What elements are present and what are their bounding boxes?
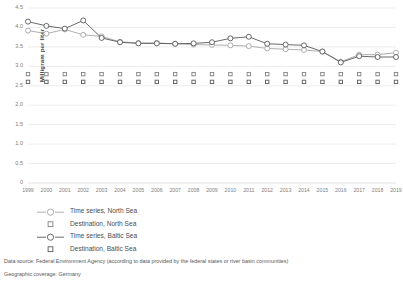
series-destination-north-sea: [26, 72, 397, 75]
legend-item[interactable]: Time series, North Sea: [36, 206, 266, 218]
data-point-marker: [191, 41, 196, 46]
legend-item[interactable]: Destination, Baltic Sea: [36, 243, 266, 255]
legend-item-label: Destination, Baltic Sea: [70, 246, 136, 253]
data-point-marker: [44, 23, 49, 28]
destination-marker: [63, 72, 66, 75]
data-point-marker: [357, 54, 362, 59]
data-point-marker: [228, 43, 233, 48]
y-tick-label: 0: [0, 180, 23, 186]
destination-marker: [266, 80, 269, 83]
destination-marker: [266, 72, 269, 75]
destination-marker: [394, 72, 397, 75]
destination-marker: [63, 80, 66, 83]
legend-line-circle-icon: [36, 231, 66, 243]
data-point-marker: [173, 41, 178, 46]
data-point-marker: [246, 34, 251, 39]
destination-marker: [137, 80, 140, 83]
series-time-series-baltic-sea: [26, 18, 399, 65]
destination-marker: [100, 80, 103, 83]
legend-item[interactable]: Destination, North Sea: [36, 218, 266, 230]
destination-marker: [339, 72, 342, 75]
destination-marker: [358, 72, 361, 75]
destination-marker: [26, 80, 29, 83]
destination-marker: [229, 72, 232, 75]
destination-marker: [45, 72, 48, 75]
series-time-series-north-sea: [26, 27, 399, 64]
legend-square-icon: [36, 218, 66, 230]
destination-marker: [321, 80, 324, 83]
destination-marker: [210, 72, 213, 75]
destination-marker: [394, 80, 397, 83]
y-tick-label: 4.0: [0, 24, 23, 30]
footnote-geographic-coverage: Geographic coverage: Germany: [4, 272, 400, 277]
data-point-marker: [338, 60, 343, 65]
data-point-marker: [62, 26, 67, 31]
data-point-marker: [81, 32, 86, 37]
data-point-marker: [320, 49, 325, 54]
x-tick-label: 2019: [384, 188, 403, 193]
legend-item[interactable]: Time series, Baltic Sea: [36, 231, 266, 243]
legend-item-label: Time series, North Sea: [70, 208, 137, 215]
destination-marker: [118, 72, 121, 75]
legend-item-label: Time series, Baltic Sea: [70, 233, 137, 240]
destination-marker: [192, 80, 195, 83]
data-point-marker: [118, 40, 123, 45]
data-point-marker: [210, 40, 215, 45]
destination-marker: [321, 72, 324, 75]
destination-marker: [284, 80, 287, 83]
destination-marker: [302, 80, 305, 83]
destination-marker: [284, 72, 287, 75]
destination-marker: [174, 80, 177, 83]
data-point-marker: [26, 19, 31, 24]
plot-svg: [28, 8, 396, 183]
destination-marker: [376, 72, 379, 75]
destination-marker: [45, 80, 48, 83]
destination-marker: [358, 80, 361, 83]
destination-marker: [302, 72, 305, 75]
destination-marker: [82, 80, 85, 83]
y-tick-label: 1.5: [0, 122, 23, 128]
data-point-marker: [265, 41, 270, 46]
y-tick-label: 1.0: [0, 141, 23, 147]
data-point-marker: [283, 42, 288, 47]
legend-item-label: Destination, North Sea: [70, 221, 136, 228]
nutrient-concentration-chart: Milligram per liter 00.51.01.52.02.53.03…: [0, 0, 403, 281]
destination-marker: [26, 72, 29, 75]
chart-legend: Time series, North SeaDestination, North…: [36, 206, 266, 256]
destination-marker: [229, 80, 232, 83]
data-point-marker: [246, 44, 251, 49]
destination-marker: [247, 80, 250, 83]
data-point-marker: [394, 55, 399, 60]
data-point-marker: [99, 35, 104, 40]
data-point-marker: [154, 41, 159, 46]
data-point-marker: [302, 43, 307, 48]
footnote-data-source: Data source: Federal Environment Agency …: [4, 259, 400, 264]
data-point-marker: [26, 28, 31, 33]
y-tick-label: 2.5: [0, 83, 23, 89]
destination-marker: [155, 80, 158, 83]
y-tick-label: 3.5: [0, 44, 23, 50]
y-tick-label: 3.0: [0, 63, 23, 69]
data-point-marker: [228, 36, 233, 41]
data-point-marker: [136, 41, 141, 46]
destination-marker: [137, 72, 140, 75]
destination-marker: [174, 72, 177, 75]
data-point-marker: [81, 18, 86, 23]
destination-marker: [210, 80, 213, 83]
destination-marker: [155, 72, 158, 75]
destination-marker: [247, 72, 250, 75]
y-tick-label: 0.5: [0, 161, 23, 167]
legend-line-circle-icon: [36, 206, 66, 218]
chart-footnotes: Data source: Federal Environment Agency …: [4, 259, 400, 281]
data-point-marker: [375, 55, 380, 60]
data-point-marker: [44, 31, 49, 36]
plot-area: [28, 8, 396, 183]
y-tick-label: 4.5: [0, 5, 23, 11]
y-tick-label: 2.0: [0, 102, 23, 108]
destination-marker: [192, 72, 195, 75]
destination-marker: [118, 80, 121, 83]
legend-square-icon: [36, 243, 66, 255]
series-destination-baltic-sea: [26, 80, 397, 83]
destination-marker: [339, 80, 342, 83]
destination-marker: [376, 80, 379, 83]
